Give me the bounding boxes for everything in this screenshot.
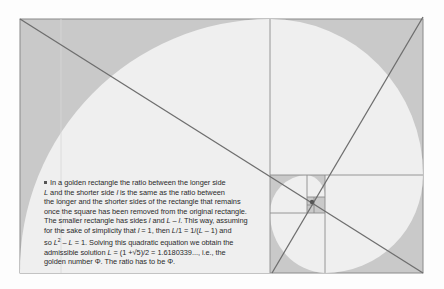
caption-text: . This way, assuming: [180, 216, 247, 225]
caption-text: so: [44, 238, 54, 247]
caption-line: once the square has been removed from th…: [44, 207, 284, 217]
spiral-pole: [310, 200, 314, 204]
caption-text: /1 = 1/(: [176, 226, 199, 235]
caption-text: for the sake of simplicity that: [44, 226, 138, 235]
caption-line: golden number Φ. The ratio has to be Φ.: [44, 257, 284, 267]
caption-text: –: [61, 238, 69, 247]
caption-line: admissible solution L = (1 +√5)/2 = 1.61…: [44, 248, 284, 258]
caption-text: In a golden rectangle the ratio between …: [50, 178, 226, 187]
caption-text: The smaller rectangle has sides: [44, 216, 149, 225]
var-expr: L – l: [167, 216, 181, 225]
caption-text: = 1, then: [139, 226, 172, 235]
caption-text: once the square has been removed from th…: [44, 207, 247, 216]
caption-text: = (1 +√5)/2 = 1.6180339..., i.e., the: [112, 248, 226, 257]
caption-text: admissible solution: [44, 248, 108, 257]
caption-text: the longer and the shorter sides of the …: [44, 197, 241, 206]
caption-text: – 1) and: [203, 226, 232, 235]
caption: In a golden rectangle the ratio between …: [44, 178, 284, 267]
caption-line: In a golden rectangle the ratio between …: [44, 178, 284, 188]
caption-line: The smaller rectangle has sides l and L …: [44, 216, 284, 226]
caption-text: and: [150, 216, 166, 225]
caption-line: so L2 – L = 1. Solving this quadratic eq…: [44, 236, 284, 248]
bullet-icon: [44, 181, 47, 184]
caption-line: for the sake of simplicity that l = 1, t…: [44, 226, 284, 236]
caption-text: golden number Φ. The ratio has to be Φ.: [44, 257, 175, 266]
caption-text: = 1. Solving this quadratic equation we …: [73, 238, 234, 247]
caption-text: and the shorter side: [48, 188, 116, 197]
caption-line: L and the shorter side l is the same as …: [44, 188, 284, 198]
caption-line: the longer and the shorter sides of the …: [44, 197, 284, 207]
caption-text: is the same as the ratio between: [118, 188, 225, 197]
